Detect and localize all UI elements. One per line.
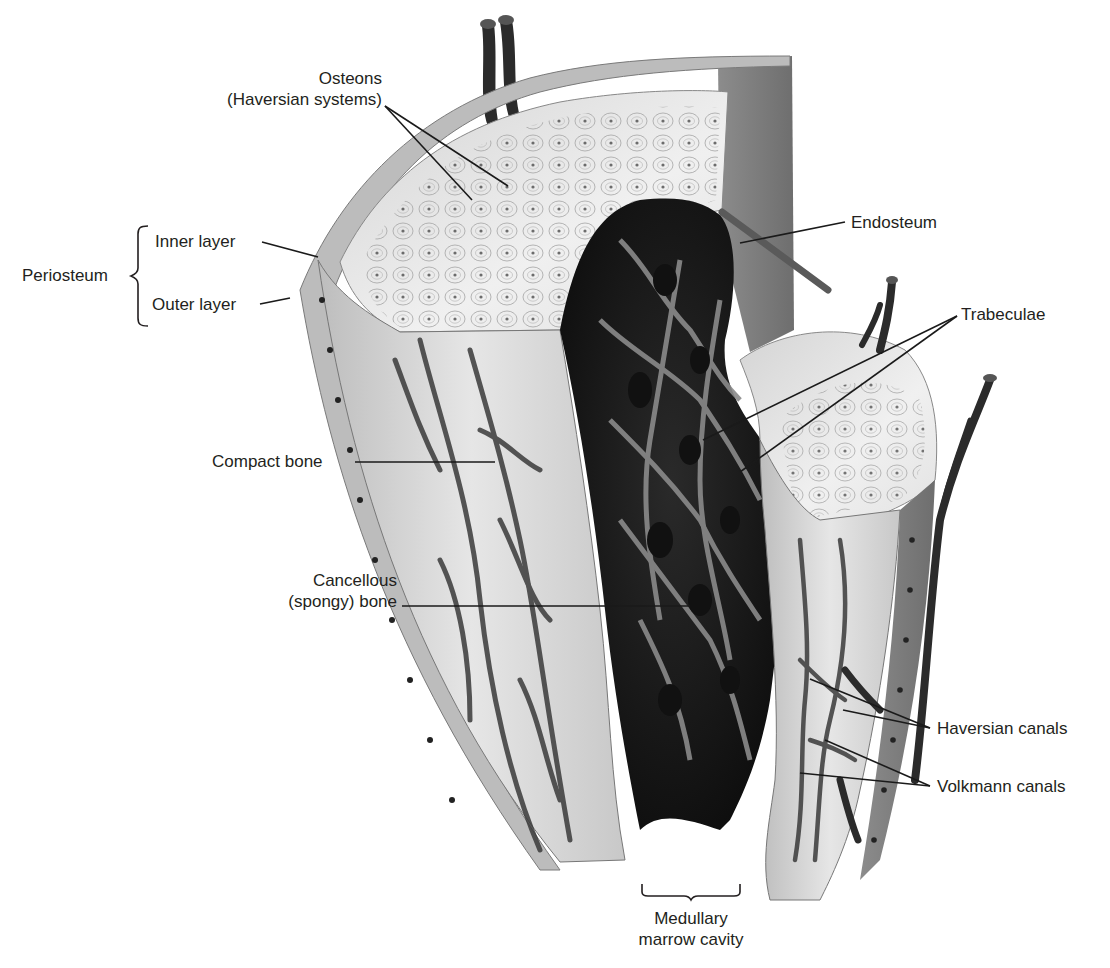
label-endosteum: Endosteum (851, 212, 937, 233)
outer-layer-leader (260, 298, 290, 304)
label-medullary-line2: marrow cavity (610, 929, 772, 950)
bone-diagram: Osteons (Haversian systems) Periosteum I… (0, 0, 1110, 968)
label-volkmann-canals: Volkmann canals (937, 776, 1066, 797)
label-periosteum: Periosteum (22, 265, 108, 286)
inner-layer-leader (262, 242, 318, 257)
label-periosteum-inner: Inner layer (155, 231, 235, 252)
label-haversian-canals: Haversian canals (937, 718, 1067, 739)
label-cancellous-line2: (spongy) bone (240, 591, 397, 612)
medullary-brace (642, 884, 740, 900)
label-compact-bone: Compact bone (212, 451, 323, 472)
label-periosteum-outer: Outer layer (152, 294, 236, 315)
periosteum-brace (131, 226, 148, 326)
label-medullary-line1: Medullary (610, 908, 772, 929)
label-trabeculae: Trabeculae (961, 304, 1045, 325)
label-cancellous: Cancellous (spongy) bone (240, 570, 397, 612)
label-medullary: Medullary marrow cavity (610, 908, 772, 950)
label-osteons: Osteons (Haversian systems) (170, 68, 382, 110)
bone-illustration (0, 0, 1110, 968)
label-osteons-line1: Osteons (170, 68, 382, 89)
label-cancellous-line1: Cancellous (240, 570, 397, 591)
label-osteons-line2: (Haversian systems) (170, 89, 382, 110)
